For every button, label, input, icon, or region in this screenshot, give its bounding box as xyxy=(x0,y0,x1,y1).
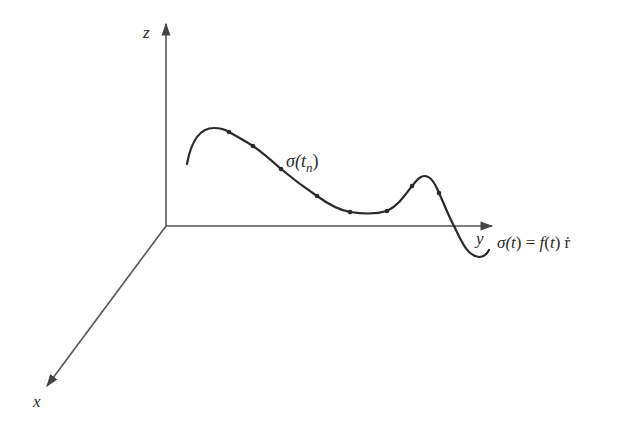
sigma-symbol: σ( xyxy=(286,151,301,171)
sample-point xyxy=(279,167,284,172)
sample-point xyxy=(315,194,320,199)
close-paren: ) xyxy=(312,151,318,171)
sigma-curve xyxy=(187,128,489,257)
sample-point xyxy=(410,184,415,189)
sample-point xyxy=(251,144,256,149)
coordinate-diagram xyxy=(0,0,623,428)
x-axis-label: x xyxy=(33,393,41,410)
sample-points xyxy=(227,130,442,215)
sample-point xyxy=(437,191,442,196)
z-axis-label: z xyxy=(143,24,150,41)
sample-point xyxy=(385,209,390,214)
sample-point xyxy=(227,130,232,135)
y-axis-label: y xyxy=(476,230,484,247)
curve-equation-label: σ(t) = f(t) ṙ xyxy=(497,234,570,251)
equals-text: ) = xyxy=(516,233,540,252)
sample-point xyxy=(348,210,353,215)
sigma-tn-label: σ(tn) xyxy=(286,152,318,174)
r-dot-symbol: ṙ xyxy=(560,233,570,252)
sigma-symbol: σ( xyxy=(497,233,511,252)
x-axis xyxy=(47,226,166,386)
